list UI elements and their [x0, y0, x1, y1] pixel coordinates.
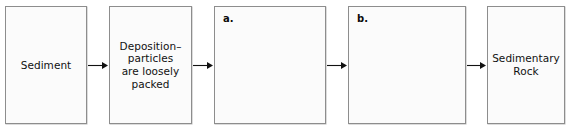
flow-box-text-sediment: Sediment [17, 59, 76, 72]
flow-box-sedimentary-rock: Sedimentary Rock [487, 6, 565, 124]
arrow-icon-arrow-3 [327, 60, 347, 71]
flow-box-text-sedimentary-rock: Sedimentary Rock [488, 52, 564, 77]
flow-box-blank-b: b. [348, 6, 466, 124]
flow-box-label-blank-a: a. [223, 13, 234, 24]
arrow-icon-arrow-1 [88, 60, 108, 71]
flow-box-blank-a: a. [214, 6, 326, 124]
flow-box-sediment: Sediment [5, 6, 87, 124]
flow-box-label-blank-b: b. [357, 13, 368, 24]
arrow-icon-arrow-2 [193, 60, 213, 71]
flow-box-deposition: Deposition– particles are loosely packed [109, 6, 192, 124]
flow-box-text-deposition: Deposition– particles are loosely packed [116, 40, 186, 90]
arrow-icon-arrow-4 [467, 60, 486, 71]
flow-chart-diagram: SedimentDeposition– particles are loosel… [0, 0, 570, 131]
